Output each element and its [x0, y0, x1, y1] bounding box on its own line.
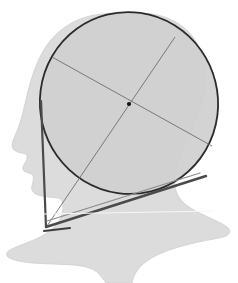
- sphere-center-point: [127, 102, 131, 106]
- head-construction-figure: Head construction diagram Tilted cranial…: [0, 0, 238, 283]
- diagram-canvas: [0, 0, 238, 283]
